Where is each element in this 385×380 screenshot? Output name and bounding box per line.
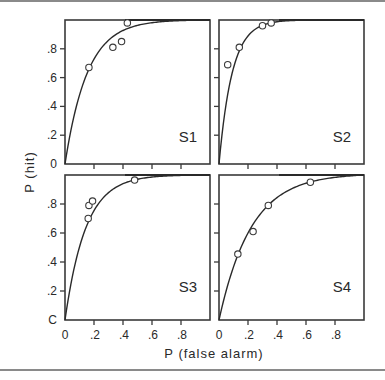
data-point	[131, 177, 137, 183]
data-point	[307, 179, 313, 185]
roc-chart: 0.2.4.6.8S1S2C.2.4.6.80.2.4.6.8S30.2.4.6…	[0, 0, 385, 380]
data-point	[85, 215, 91, 221]
y-tick-label: 0	[50, 157, 57, 171]
panel-s3: C.2.4.6.80.2.4.6.8S3	[47, 175, 210, 342]
data-point	[110, 44, 116, 50]
x-tick-label: .8	[331, 328, 341, 342]
panel-label-s2: S2	[333, 128, 351, 145]
x-tick-label: .6	[148, 328, 158, 342]
roc-curve	[219, 175, 364, 320]
data-point	[259, 23, 265, 29]
x-tick-label: 0	[216, 328, 223, 342]
panel-label-s3: S3	[179, 278, 197, 295]
data-point	[89, 198, 95, 204]
y-tick-label: .2	[47, 284, 57, 298]
y-tick-label: .8	[47, 42, 57, 56]
y-tick-label: C	[48, 313, 57, 327]
x-axis-title: P (false alarm)	[164, 346, 263, 361]
data-point	[236, 44, 242, 50]
x-tick-label: .8	[177, 328, 187, 342]
data-point	[235, 251, 241, 257]
y-tick-label: .4	[47, 255, 57, 269]
x-tick-label: .2	[244, 328, 254, 342]
y-tick-label: .2	[47, 128, 57, 142]
data-point	[250, 228, 256, 234]
y-tick-label: .8	[47, 197, 57, 211]
panel-label-s1: S1	[179, 128, 197, 145]
x-tick-label: .2	[90, 328, 100, 342]
panel-s4: 0.2.4.6.8S4	[214, 175, 364, 342]
data-point	[118, 38, 124, 44]
x-tick-label: .4	[119, 328, 129, 342]
panel-label-s4: S4	[333, 278, 351, 295]
y-tick-label: .6	[47, 226, 57, 240]
x-tick-label: .6	[302, 328, 312, 342]
y-axis-title: P (hit)	[22, 151, 37, 192]
roc-curve	[65, 175, 210, 320]
data-point	[86, 64, 92, 70]
data-point	[225, 61, 231, 67]
panel-frame	[65, 175, 210, 320]
y-tick-label: .6	[47, 71, 57, 85]
panel-s1: 0.2.4.6.8S1	[47, 20, 210, 171]
panel-s2: S2	[214, 20, 364, 169]
data-point	[124, 20, 130, 26]
x-tick-label: .4	[273, 328, 283, 342]
y-tick-label: .4	[47, 99, 57, 113]
data-point	[268, 20, 274, 26]
x-tick-label: 0	[62, 328, 69, 342]
data-point	[265, 202, 271, 208]
